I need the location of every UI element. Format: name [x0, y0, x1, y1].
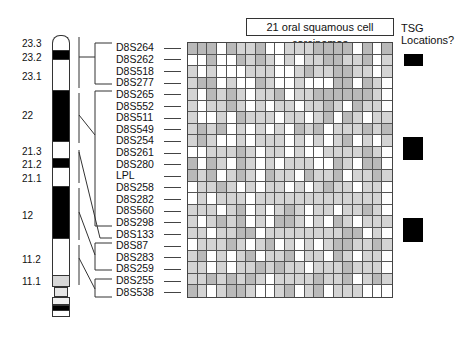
- grid-cell: [285, 55, 295, 67]
- grid-cell: [246, 147, 256, 159]
- grid-cell: [295, 193, 305, 205]
- grid-cell: [334, 55, 344, 67]
- grid-cell: [198, 66, 208, 78]
- grid-cell: [295, 147, 305, 159]
- grid-cell: [256, 170, 266, 182]
- grid-cell: [198, 182, 208, 194]
- grid-cell: [363, 66, 373, 78]
- grid-cell: [237, 228, 247, 240]
- grid-cell: [285, 239, 295, 251]
- grid-cell: [382, 55, 392, 67]
- grid-cell: [382, 124, 392, 136]
- grid-cell: [295, 216, 305, 228]
- grid-cell: [275, 205, 285, 217]
- grid-cell: [382, 228, 392, 240]
- grid-cell: [305, 239, 315, 251]
- grid-cell: [188, 182, 198, 194]
- grid-cell: [373, 135, 383, 147]
- grid-cell: [343, 285, 353, 297]
- grid-cell: [334, 43, 344, 55]
- marker-tick: [164, 187, 181, 188]
- grid-cell: [266, 193, 276, 205]
- grid-cell: [256, 89, 266, 101]
- grid-cell: [314, 43, 324, 55]
- grid-cell: [266, 228, 276, 240]
- grid-cell: [237, 43, 247, 55]
- grid-cell: [188, 158, 198, 170]
- grid-cell: [334, 239, 344, 251]
- grid-cell: [256, 239, 266, 251]
- grid-cell: [353, 158, 363, 170]
- grid-cell: [343, 262, 353, 274]
- grid-cell: [237, 251, 247, 263]
- grid-cell: [217, 251, 227, 263]
- grid-cell: [256, 158, 266, 170]
- grid-cell: [246, 274, 256, 286]
- grid-cell: [188, 112, 198, 124]
- grid-cell: [285, 158, 295, 170]
- tsg-label-line1: TSG: [401, 22, 454, 34]
- grid-cell: [324, 147, 334, 159]
- grid-cell: [217, 216, 227, 228]
- grid-cell: [256, 135, 266, 147]
- grid-cell: [334, 112, 344, 124]
- grid-cell: [207, 43, 217, 55]
- grid-cell: [275, 274, 285, 286]
- grid-cell: [382, 89, 392, 101]
- grid-cell: [295, 89, 305, 101]
- grid-cell: [324, 182, 334, 194]
- grid-cell: [295, 205, 305, 217]
- grid-cell: [353, 228, 363, 240]
- grid-cell: [285, 101, 295, 113]
- grid-cell: [237, 135, 247, 147]
- grid-cell: [275, 43, 285, 55]
- grid-cell: [198, 262, 208, 274]
- grid-cell: [285, 147, 295, 159]
- grid-cell: [285, 78, 295, 90]
- grid-cell: [207, 274, 217, 286]
- grid-cell: [246, 228, 256, 240]
- grid-cell: [373, 216, 383, 228]
- grid-cell: [275, 239, 285, 251]
- grid-cell: [314, 147, 324, 159]
- grid-cell: [373, 43, 383, 55]
- grid-cell: [227, 66, 237, 78]
- grid-cell: [246, 89, 256, 101]
- grid-cell: [285, 182, 295, 194]
- grid-cell: [217, 101, 227, 113]
- grid-cell: [237, 55, 247, 67]
- grid-cell: [295, 182, 305, 194]
- grid-cell: [237, 89, 247, 101]
- grid-cell: [207, 112, 217, 124]
- grid-cell: [353, 251, 363, 263]
- grid-cell: [227, 55, 237, 67]
- grid-cell: [353, 89, 363, 101]
- grid-cell: [188, 89, 198, 101]
- grid-cell: [314, 55, 324, 67]
- grid-cell: [363, 43, 373, 55]
- grid-cell: [227, 274, 237, 286]
- grid-cell: [324, 251, 334, 263]
- grid-cell: [334, 193, 344, 205]
- grid-cell: [324, 124, 334, 136]
- grid-cell: [334, 135, 344, 147]
- grid-cell: [217, 262, 227, 274]
- grid-cell: [227, 216, 237, 228]
- grid-cell: [285, 112, 295, 124]
- grid-cell: [334, 274, 344, 286]
- grid-cell: [256, 285, 266, 297]
- grid-cell: [382, 101, 392, 113]
- grid-cell: [256, 43, 266, 55]
- grid-cell: [373, 147, 383, 159]
- grid-cell: [324, 274, 334, 286]
- grid-cell: [217, 124, 227, 136]
- grid-cell: [353, 205, 363, 217]
- grid-cell: [275, 78, 285, 90]
- grid-cell: [256, 112, 266, 124]
- grid-cell: [198, 55, 208, 67]
- grid-cell: [198, 228, 208, 240]
- grid-cell: [266, 170, 276, 182]
- grid-cell: [227, 239, 237, 251]
- marker-tick: [164, 94, 181, 95]
- grid-cell: [334, 205, 344, 217]
